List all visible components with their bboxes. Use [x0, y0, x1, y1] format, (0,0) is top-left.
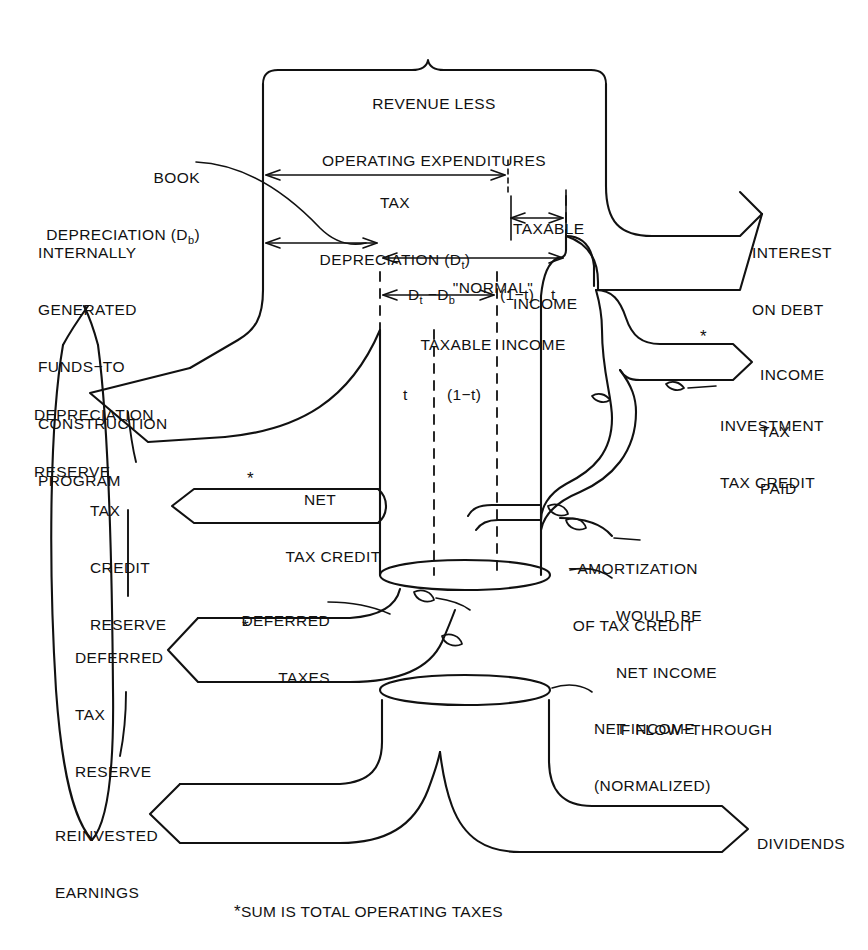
would-be-line2: NET INCOME	[616, 663, 816, 682]
diagram-canvas: REVENUE LESS OPERATING EXPENDITURES BOOK…	[0, 0, 868, 950]
t-top-label: t	[551, 285, 556, 304]
normal-taxable-income-label: "NORMAL" TAXABLE INCOME	[398, 240, 588, 392]
interest-on-debt-band-lower	[566, 214, 762, 290]
igf-line1: INTERNALLY	[38, 243, 218, 262]
dividends-label: DIVIDENDS	[757, 834, 845, 853]
tax-credit-reserve-line1: TAX	[90, 501, 210, 520]
igf-line2: GENERATED	[38, 300, 218, 319]
interest-on-debt-line1: INTEREST	[752, 243, 862, 262]
reinvested-earnings-line2: EARNINGS	[55, 883, 205, 902]
would-be-net-income-band	[380, 560, 550, 590]
deferred-taxes-line2: TAXES	[180, 668, 330, 687]
interest-on-debt-line2: ON DEBT	[752, 300, 862, 319]
top-label-line1: REVENUE LESS	[300, 94, 568, 113]
deferred-taxes-asterisk: *	[242, 618, 249, 635]
taxable-income-line1: TAXABLE	[513, 219, 593, 238]
income-tax-paid-flow	[596, 290, 752, 380]
footnote-asterisk: *	[234, 902, 241, 921]
normal-taxable-income-line2: TAXABLE INCOME	[398, 335, 588, 354]
tax-depreciation-line1: TAX	[290, 193, 500, 212]
depreciation-reserve-line1: DEPRECIATION	[34, 405, 194, 424]
footnote-text: SUM IS TOTAL OPERATING TAXES	[241, 903, 503, 920]
pipe-section-markers	[592, 382, 684, 402]
income-tax-paid-asterisk: *	[700, 328, 707, 345]
one-minus-t-mid-label: (1−t)	[447, 385, 481, 404]
deferred-taxes-line1: DEFERRED	[180, 611, 330, 630]
investment-tax-credit-label: INVESTMENT TAX CREDIT	[720, 378, 860, 530]
investment-tax-credit-line2: TAX CREDIT	[720, 473, 860, 492]
reinvested-earnings-line1: REINVESTED	[55, 826, 205, 845]
net-tax-credit-line2: TAX CREDIT	[266, 547, 400, 566]
t-mid-label: t	[403, 385, 408, 404]
net-income-normalized-band	[380, 675, 550, 705]
trunk-right-wall-interest	[606, 84, 700, 236]
dt-minus-db-label: Dt −Db	[408, 285, 455, 310]
one-minus-t-top-label: (1−t)	[500, 285, 534, 304]
book-depreciation-line1: BOOK	[28, 168, 200, 187]
deferred-tax-reserve-line3: RESERVE	[75, 762, 205, 781]
investment-tax-credit-line1: INVESTMENT	[720, 416, 860, 435]
net-income-line1: NET INCOME	[594, 719, 784, 738]
footnote: *SUM IS TOTAL OPERATING TAXES	[234, 902, 503, 921]
would-be-line1: WOULD BE	[616, 606, 816, 625]
deferred-taxes-label: DEFERRED TAXES	[180, 573, 330, 725]
net-income-line2: (NORMALIZED)	[594, 776, 784, 795]
net-income-normalized-label: NET INCOME (NORMALIZED)	[594, 681, 784, 833]
net-tax-credit-line1: NET	[240, 490, 400, 509]
reinvested-earnings-label: REINVESTED EARNINGS	[55, 788, 205, 940]
